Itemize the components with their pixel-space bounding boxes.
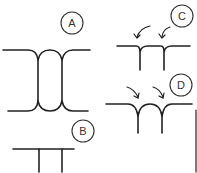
label-a: A: [61, 12, 83, 34]
curved-arrow-c-right: [162, 27, 170, 37]
panel-c-shape: [117, 46, 190, 70]
curved-arrow-d-right: [153, 87, 163, 97]
panel-a: A: [3, 12, 90, 111]
panel-a-bottom-shape: [8, 101, 88, 111]
label-b-text: B: [79, 125, 86, 137]
panel-a-top-shape: [3, 50, 90, 60]
panel-d: D: [106, 74, 192, 133]
panel-c: C: [117, 5, 193, 70]
label-b: B: [72, 120, 94, 142]
label-d: D: [170, 74, 192, 96]
label-d-text: D: [177, 79, 185, 91]
panel-b: B: [13, 120, 94, 172]
diagram-canvas: A B C D: [0, 0, 197, 173]
label-c: C: [171, 5, 193, 27]
label-a-text: A: [68, 17, 76, 29]
panel-d-shape: [106, 104, 192, 116]
label-c-text: C: [178, 10, 186, 22]
curved-arrow-d-left: [127, 87, 138, 97]
